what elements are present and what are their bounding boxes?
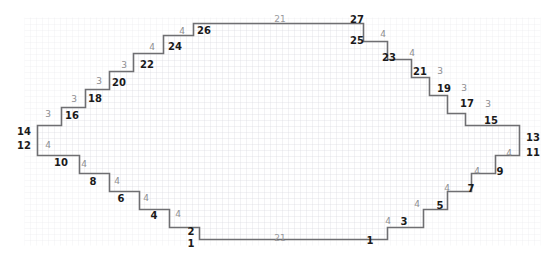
riser-label-7-24: 7	[468, 184, 475, 194]
tread-label-3-14: 3	[461, 84, 467, 93]
riser-label-18-4: 18	[88, 94, 102, 104]
tread-label-3-2: 3	[121, 61, 127, 70]
diagram-canvas: 2624222018161412108642127252321191715131…	[0, 0, 555, 260]
tread-label-4-19: 4	[414, 200, 420, 209]
riser-label-11-22: 11	[526, 148, 540, 158]
riser-label-16-5: 16	[65, 111, 79, 121]
riser-label-10-8: 10	[54, 158, 68, 168]
tread-label-3-15: 3	[485, 100, 491, 109]
tread-label-3-5: 3	[45, 110, 51, 119]
riser-label-26-0: 26	[197, 26, 211, 36]
riser-label-8-9: 8	[90, 177, 97, 187]
tread-label-4-8: 4	[114, 177, 120, 186]
tread-label-4-11: 4	[380, 30, 386, 39]
edge-label-21-0: 21	[274, 15, 285, 24]
tread-label-4-20: 4	[385, 217, 391, 226]
tread-label-4-16: 4	[506, 149, 512, 158]
tread-label-4-6: 4	[45, 141, 51, 150]
riser-label-17-19: 17	[460, 99, 474, 109]
riser-label-6-10: 6	[118, 194, 125, 204]
riser-label-27-14: 27	[350, 15, 364, 25]
riser-label-5-25: 5	[437, 201, 444, 211]
riser-label-1-27: 1	[367, 236, 374, 246]
riser-label-12-7: 12	[17, 141, 31, 151]
tread-label-4-17: 4	[474, 167, 480, 176]
riser-label-14-6: 14	[17, 127, 31, 137]
riser-label-4-11: 4	[151, 211, 158, 221]
riser-label-1-13: 1	[188, 239, 195, 249]
riser-label-21-17: 21	[413, 67, 427, 77]
riser-label-20-3: 20	[112, 78, 126, 88]
riser-label-23-16: 23	[382, 53, 396, 63]
tread-label-4-18: 4	[444, 184, 450, 193]
tread-label-4-0: 4	[179, 27, 185, 36]
riser-label-15-20: 15	[484, 116, 498, 126]
riser-label-19-18: 19	[437, 84, 451, 94]
tread-label-4-7: 4	[81, 160, 87, 169]
tread-label-4-9: 4	[143, 194, 149, 203]
tread-label-3-4: 3	[71, 95, 77, 104]
tread-label-4-12: 4	[409, 49, 415, 58]
riser-label-3-26: 3	[401, 217, 408, 227]
tread-label-3-13: 3	[437, 67, 443, 76]
tread-label-4-1: 4	[149, 43, 155, 52]
riser-label-9-23: 9	[497, 167, 504, 177]
tread-label-4-10: 4	[175, 210, 181, 219]
riser-label-25-15: 25	[350, 36, 364, 46]
edge-label-21-1: 21	[274, 234, 285, 243]
riser-label-22-2: 22	[140, 60, 154, 70]
riser-label-24-1: 24	[168, 42, 182, 52]
riser-label-13-21: 13	[526, 133, 540, 143]
riser-label-2-12: 2	[188, 227, 195, 237]
tread-label-3-3: 3	[96, 77, 102, 86]
stepped-polygon-figure	[0, 0, 555, 260]
